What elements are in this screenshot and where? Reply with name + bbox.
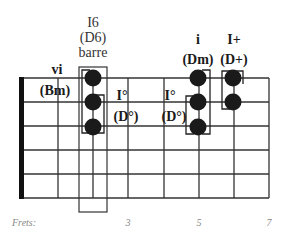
chord-numeral-i: i — [196, 32, 200, 47]
finger-dot — [85, 94, 102, 111]
chord-numeral-I6: I6 — [87, 15, 99, 30]
chord-name-Bm: (Bm) — [40, 83, 71, 99]
finger-dot — [190, 119, 207, 136]
finger-dot — [85, 70, 102, 87]
finger-dot — [225, 70, 242, 87]
chord-numeral-vi: vi — [52, 62, 63, 77]
chord-name-Daug: (D+) — [220, 52, 248, 68]
chord-diagram: I6 (D6) barre vi (Bm) I° (D°) I° (D°) i … — [0, 0, 282, 239]
finger-dot — [190, 70, 207, 87]
fret-number: 3 — [125, 217, 131, 228]
chord-name-Ddim: (D°) — [161, 109, 186, 125]
finger-dot — [85, 119, 102, 136]
finger-dot — [190, 94, 207, 111]
finger-dot — [225, 94, 242, 111]
frets-label: Frets: — [11, 217, 36, 228]
chord-numeral-Iaug: I+ — [227, 32, 240, 47]
chord-numeral-Idim: I° — [164, 88, 175, 103]
chord-note-barre: barre — [79, 45, 108, 60]
chord-name-Dm: (Dm) — [182, 52, 213, 68]
fret-number: 7 — [267, 217, 273, 228]
chord-name-D6: (D6) — [80, 30, 107, 46]
chord-numeral-Idim: I° — [116, 88, 127, 103]
chord-name-Ddim: (D°) — [113, 109, 138, 125]
fret-number: 5 — [197, 217, 202, 228]
nut — [19, 77, 24, 199]
